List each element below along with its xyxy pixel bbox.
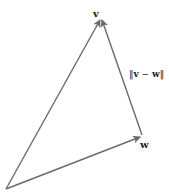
label-norm-v-minus-w: ‖v − w‖ <box>129 70 164 79</box>
norm-v: v <box>134 69 139 79</box>
norm-bar-right: ‖ <box>160 69 165 79</box>
vector-w-arrow <box>6 137 140 189</box>
norm-w: w <box>152 69 160 79</box>
vector-diagram <box>0 0 169 195</box>
norm-minus: − <box>142 69 150 79</box>
label-w: w <box>140 140 149 150</box>
vector-v-arrow <box>6 20 100 189</box>
label-v: v <box>93 9 99 19</box>
